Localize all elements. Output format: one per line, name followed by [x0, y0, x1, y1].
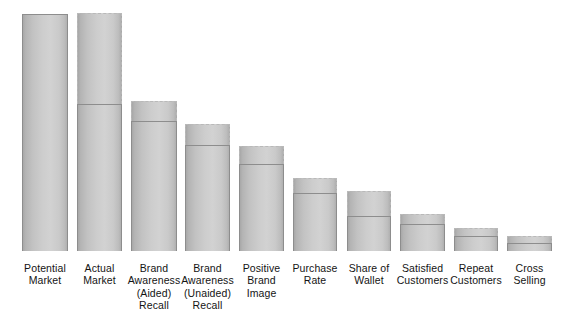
bar-satisfied-customers [400, 214, 445, 251]
bar-actual-segment-actual-market [77, 104, 122, 251]
bar-actual-segment-share-of-wallet [347, 216, 391, 251]
bar-potential-market [22, 14, 68, 251]
bar-actual-segment-brand-awareness-unaided-recall [185, 145, 230, 251]
bar-potential-segment-satisfied-customers [400, 214, 445, 224]
bar-potential-segment-brand-awareness-aided-recall [131, 101, 177, 121]
bar-potential-segment-actual-market [77, 13, 122, 104]
bar-label-line: Recall [172, 299, 244, 311]
bar-purchase-rate [293, 178, 337, 251]
bar-brand-awareness-unaided-recall [185, 124, 230, 251]
bar-potential-segment-purchase-rate [293, 178, 337, 193]
bar-actual-segment-purchase-rate [293, 193, 337, 251]
bar-actual-segment-positive-brand-image [239, 164, 284, 251]
bar-positive-brand-image [239, 146, 284, 251]
bar-actual-segment-brand-awareness-aided-recall [131, 121, 177, 251]
bar-actual-segment-satisfied-customers [400, 224, 445, 251]
bar-potential-segment-cross-selling [507, 236, 552, 243]
bar-cross-selling [507, 236, 552, 251]
bar-actual-segment-potential-market [22, 14, 68, 251]
bar-label-line: Cross [494, 262, 566, 274]
bar-brand-awareness-aided-recall [131, 101, 177, 251]
bar-label-line: Selling [494, 274, 566, 286]
bar-label-cross-selling: CrossSelling [494, 262, 566, 287]
bar-potential-segment-brand-awareness-unaided-recall [185, 124, 230, 145]
bar-share-of-wallet [347, 191, 391, 251]
bar-actual-market [77, 13, 122, 251]
bar-potential-segment-repeat-customers [454, 228, 498, 236]
bar-repeat-customers [454, 228, 498, 251]
bar-actual-segment-repeat-customers [454, 236, 498, 251]
bar-potential-segment-positive-brand-image [239, 146, 284, 164]
bar-actual-segment-cross-selling [507, 243, 552, 251]
bar-label-line: Image [226, 287, 298, 299]
bar-potential-segment-share-of-wallet [347, 191, 391, 216]
brand-funnel-chart: PotentialMarketActualMarketBrandAwarenes… [0, 0, 575, 320]
